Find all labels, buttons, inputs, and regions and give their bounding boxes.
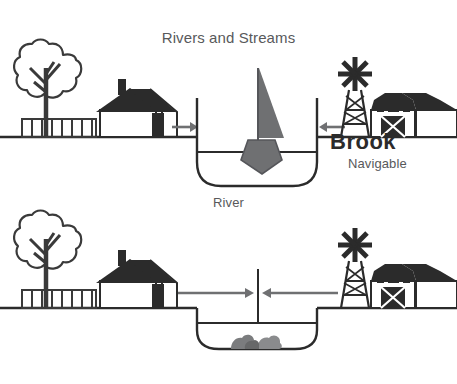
windmill-icon bbox=[338, 57, 372, 137]
overlapped-brook-label: Brook bbox=[330, 131, 396, 153]
navigable-label: Navigable bbox=[348, 157, 407, 170]
page-title: Rivers and Streams bbox=[0, 30, 457, 45]
picket-fence-icon bbox=[22, 119, 96, 137]
picket-fence-icon bbox=[22, 290, 96, 308]
house-icon bbox=[96, 250, 197, 308]
non-navigable-panel: Non - Navigable Brook bbox=[0, 192, 457, 384]
diagram-canvas: Rivers and Streams Brook Navigable River bbox=[0, 0, 457, 384]
navigable-panel: Rivers and Streams Brook Navigable bbox=[0, 0, 457, 192]
flow-arrow-right-to-left bbox=[262, 288, 338, 298]
flow-arrow-left-to-right bbox=[178, 288, 254, 298]
sailboat-icon bbox=[241, 68, 284, 174]
flow-arrow-left-to-right bbox=[172, 122, 198, 132]
windmill-icon bbox=[338, 228, 372, 308]
barn-icon bbox=[371, 264, 457, 308]
non-navigable-panel-illustration bbox=[0, 192, 457, 384]
